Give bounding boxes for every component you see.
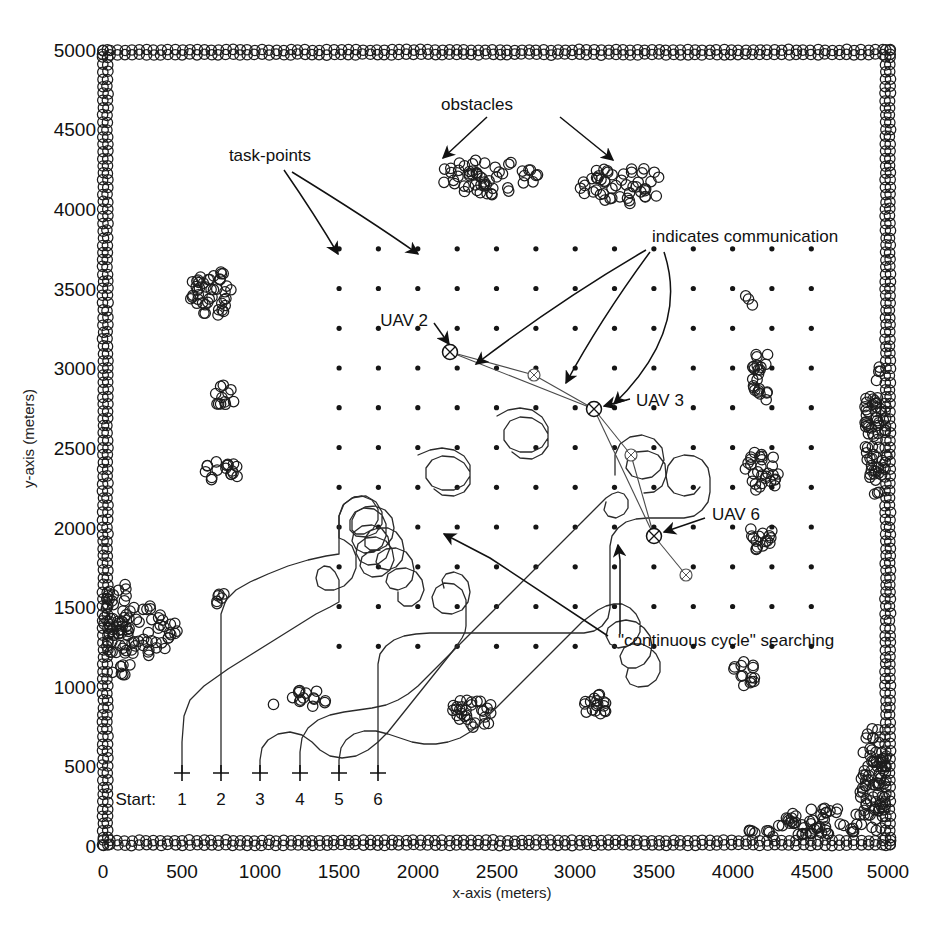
uav-marker-2[interactable] <box>443 345 458 360</box>
obstacle <box>207 472 217 482</box>
uav-trajectories <box>182 408 710 773</box>
task-point <box>612 246 617 251</box>
obstacle <box>134 617 144 627</box>
task-point <box>809 246 814 251</box>
task-point <box>651 445 656 450</box>
uav-marker-c[interactable] <box>680 569 692 581</box>
svg-text:0: 0 <box>85 836 96 857</box>
leader-comm-b <box>566 252 650 383</box>
task-point <box>769 485 774 490</box>
obstacle <box>439 177 449 187</box>
task-point <box>494 445 499 450</box>
task-point <box>809 524 814 529</box>
uav-marker-a[interactable] <box>528 369 540 381</box>
task-point <box>651 286 656 291</box>
task-point <box>612 564 617 569</box>
obstacle <box>226 385 236 395</box>
task-point <box>651 326 656 331</box>
svg-text:500: 500 <box>166 861 198 882</box>
task-point-lattice <box>337 246 814 649</box>
uav-path-5 <box>339 604 660 773</box>
start-marker-3 <box>252 765 268 781</box>
leader-uav2 <box>434 323 449 344</box>
task-point <box>809 326 814 331</box>
task-point <box>494 524 499 529</box>
task-point <box>730 445 735 450</box>
start-marker-2 <box>213 765 229 781</box>
task-point <box>415 564 420 569</box>
uav-path-loop-b <box>497 408 548 459</box>
start-label-4: 4 <box>295 790 304 809</box>
task-point <box>651 246 656 251</box>
svg-text:5000: 5000 <box>867 861 909 882</box>
task-point <box>573 485 578 490</box>
task-point <box>337 644 342 649</box>
task-point <box>691 246 696 251</box>
task-point <box>533 644 538 649</box>
task-point <box>612 286 617 291</box>
task-point <box>415 365 420 370</box>
task-point <box>769 524 774 529</box>
task-point <box>730 604 735 609</box>
task-point <box>494 326 499 331</box>
start-marker-5 <box>331 765 347 781</box>
task-point <box>494 405 499 410</box>
task-point <box>769 604 774 609</box>
svg-text:4500: 4500 <box>54 119 96 140</box>
obstacle <box>159 621 169 631</box>
task-point <box>415 604 420 609</box>
task-point <box>455 405 460 410</box>
svg-text:1500: 1500 <box>54 597 96 618</box>
uav-marker-6[interactable] <box>647 529 662 544</box>
label-task-points: task-points <box>229 146 311 165</box>
task-point <box>691 365 696 370</box>
boundary-obstacle <box>874 442 884 452</box>
obstacle <box>739 657 749 667</box>
svg-text:3500: 3500 <box>633 861 675 882</box>
task-point <box>730 524 735 529</box>
task-point <box>533 604 538 609</box>
task-point <box>573 405 578 410</box>
task-point <box>337 604 342 609</box>
task-point <box>337 405 342 410</box>
svg-text:4500: 4500 <box>791 861 833 882</box>
task-point <box>691 405 696 410</box>
comm-link-mid-uav3 <box>534 375 594 409</box>
uav-path-6 <box>378 455 710 773</box>
task-point <box>612 365 617 370</box>
task-point <box>533 286 538 291</box>
obstacle <box>200 467 210 477</box>
task-point <box>809 286 814 291</box>
svg-text:2000: 2000 <box>397 861 439 882</box>
comm-link-uav2-uav3 <box>450 352 594 409</box>
task-point <box>455 326 460 331</box>
task-point <box>730 326 735 331</box>
obstacle <box>747 476 757 486</box>
label-obstacles: obstacles <box>441 95 513 114</box>
svg-text:1000: 1000 <box>54 677 96 698</box>
start-label-5: 5 <box>334 790 343 809</box>
uav-marker-b[interactable] <box>625 449 637 461</box>
task-point <box>809 365 814 370</box>
x-axis-title: x-axis (meters) <box>392 884 612 901</box>
task-point <box>455 365 460 370</box>
task-point <box>730 365 735 370</box>
start-label-2: 2 <box>216 790 225 809</box>
task-point <box>769 365 774 370</box>
leader-obstacles-left <box>443 117 487 158</box>
task-point <box>337 485 342 490</box>
task-point <box>612 524 617 529</box>
task-point <box>573 604 578 609</box>
obstacle <box>147 614 157 624</box>
x-axis-ticks: 0 500 1000 1500 2000 2500 3000 3500 4000… <box>98 861 909 882</box>
task-point <box>691 445 696 450</box>
start-markers <box>174 765 386 781</box>
task-point <box>376 445 381 450</box>
task-point <box>691 564 696 569</box>
task-point <box>769 326 774 331</box>
obstacle <box>741 291 751 301</box>
task-point <box>612 485 617 490</box>
uav-marker-3[interactable] <box>587 402 602 417</box>
task-point <box>415 445 420 450</box>
task-point <box>337 286 342 291</box>
